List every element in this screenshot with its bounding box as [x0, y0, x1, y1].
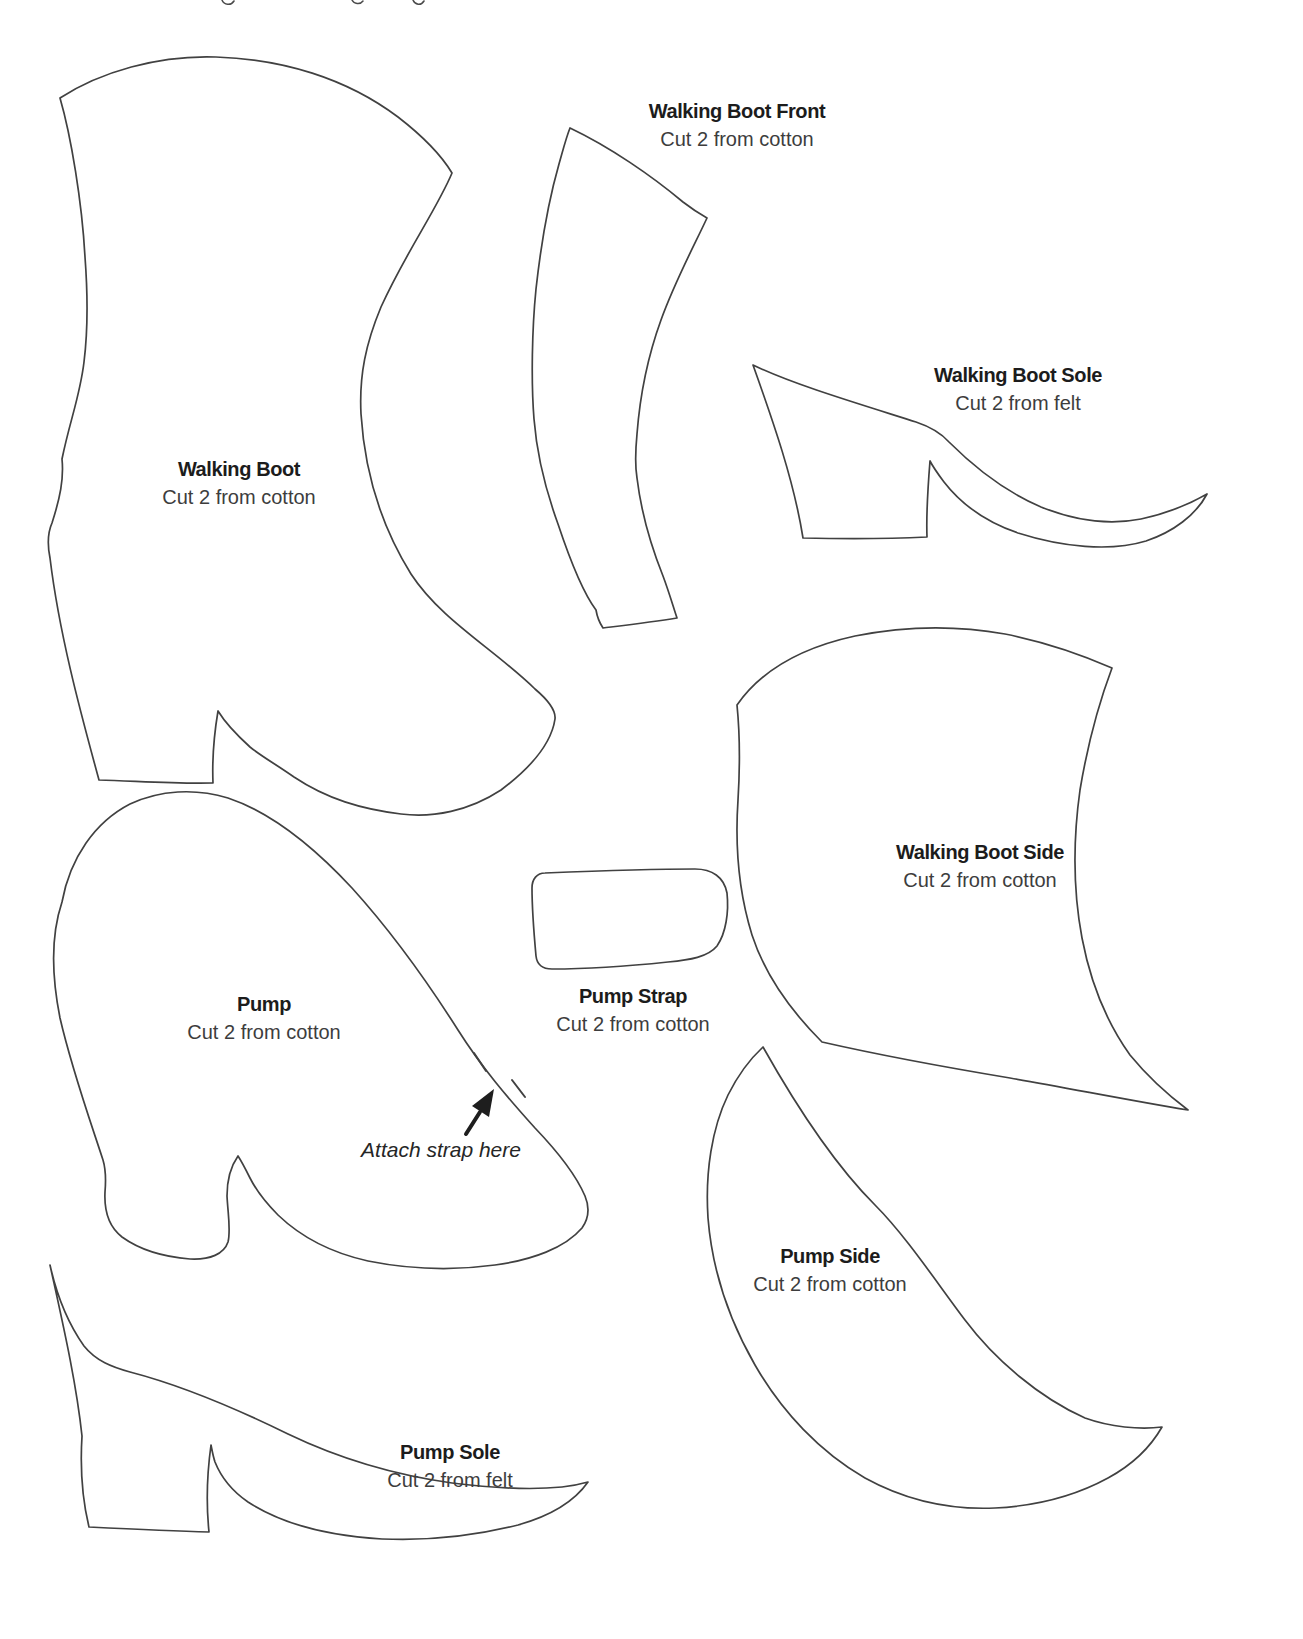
pump-side-title: Pump Side [753, 1242, 906, 1270]
walking-boot-front-title: Walking Boot Front [649, 97, 825, 125]
strap-placement-tick [512, 1080, 525, 1097]
walking-boot-sole-title: Walking Boot Sole [934, 361, 1102, 389]
label-walking-boot: Walking Boot Cut 2 from cotton [162, 455, 315, 511]
attach-strap-note: Attach strap here [361, 1138, 521, 1162]
walking-boot-side-subtitle: Cut 2 from cotton [896, 866, 1064, 894]
pump-sole-title: Pump Sole [387, 1438, 513, 1466]
walking-boot-title: Walking Boot [162, 455, 315, 483]
label-pump-sole: Pump Sole Cut 2 from felt [387, 1438, 513, 1494]
pump-title: Pump [187, 990, 340, 1018]
strap-placement-tick [474, 1053, 486, 1071]
walking-boot-front-subtitle: Cut 2 from cotton [649, 125, 825, 153]
attach-strap-arrow-icon [466, 1089, 494, 1134]
strap-placement-ticks [474, 1053, 525, 1097]
pattern-outlines-canvas [0, 0, 1303, 1639]
walking-boot-subtitle: Cut 2 from cotton [162, 483, 315, 511]
walking-boot-outline [48, 57, 555, 815]
pump-strap-outline [532, 869, 728, 969]
label-pump: Pump Cut 2 from cotton [187, 990, 340, 1046]
pump-strap-subtitle: Cut 2 from cotton [556, 1010, 709, 1038]
label-pump-side: Pump Side Cut 2 from cotton [753, 1242, 906, 1298]
pattern-sheet-page: Walking Boot Cut 2 from cotton Walking B… [0, 0, 1303, 1639]
pump-side-subtitle: Cut 2 from cotton [753, 1270, 906, 1298]
label-walking-boot-front: Walking Boot Front Cut 2 from cotton [649, 97, 825, 153]
page-top-text-remnant [222, 0, 424, 4]
label-walking-boot-sole: Walking Boot Sole Cut 2 from felt [934, 361, 1102, 417]
pump-subtitle: Cut 2 from cotton [187, 1018, 340, 1046]
label-pump-strap: Pump Strap Cut 2 from cotton [556, 982, 709, 1038]
walking-boot-sole-subtitle: Cut 2 from felt [934, 389, 1102, 417]
pump-sole-outline [50, 1265, 588, 1539]
label-walking-boot-side: Walking Boot Side Cut 2 from cotton [896, 838, 1064, 894]
pump-strap-title: Pump Strap [556, 982, 709, 1010]
walking-boot-side-title: Walking Boot Side [896, 838, 1064, 866]
pump-sole-subtitle: Cut 2 from felt [387, 1466, 513, 1494]
walking-boot-front-outline [532, 128, 707, 628]
